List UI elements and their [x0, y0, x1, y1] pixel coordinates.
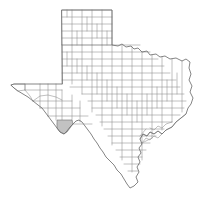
counties-panhandle: [62, 10, 112, 45]
texas-county-map-figure: [0, 0, 214, 197]
texas-county-map-svg[interactable]: [0, 0, 214, 197]
